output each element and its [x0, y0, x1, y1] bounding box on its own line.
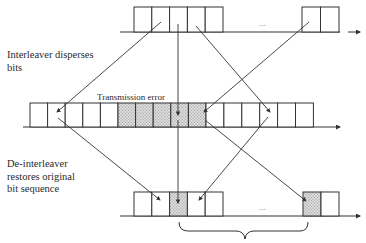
- top-cell: [205, 7, 223, 32]
- top-ellipsis: ...: [259, 18, 266, 28]
- middle-cell: [30, 103, 48, 127]
- middle-cell: [242, 103, 260, 127]
- bottom-bit-sequence: [120, 192, 360, 216]
- bottom-cell-error: [303, 192, 321, 216]
- middle-cell-error: [188, 103, 206, 127]
- interleaver-caption-line: bits: [7, 62, 94, 75]
- bottom-cell: [321, 192, 339, 216]
- middle-cell-error: [153, 103, 171, 127]
- top-bit-sequence: [120, 7, 360, 32]
- middle-cell: [83, 103, 101, 127]
- top-cell: [187, 7, 205, 32]
- middle-cell: [100, 103, 118, 127]
- deinterleaver-caption: De-interleaver restores original bit seq…: [7, 158, 75, 196]
- middle-cell-error: [118, 103, 136, 127]
- top-cell: [134, 7, 152, 32]
- interleave-arrow: [204, 22, 309, 112]
- middle-cell-error: [171, 103, 189, 127]
- bottom-cell: [134, 192, 152, 216]
- interleave-arrow: [196, 26, 270, 112]
- deinterleaver-caption-line: restores original: [7, 171, 75, 184]
- interleaving-diagram: ... ...: [0, 0, 366, 243]
- bottom-ellipsis: ...: [259, 202, 266, 212]
- bottom-cell: [205, 192, 223, 216]
- interleaver-caption-line: Interleaver disperses: [7, 49, 94, 62]
- middle-cell: [224, 103, 242, 127]
- top-cell: [152, 7, 170, 32]
- top-cell: [302, 7, 321, 32]
- deinterleave-arrow: [199, 117, 268, 200]
- error-spread-brace: [179, 222, 308, 239]
- middle-cell: [65, 103, 83, 127]
- deinterleaver-caption-line: De-interleaver: [7, 158, 75, 171]
- middle-cell: [296, 103, 314, 127]
- middle-cell-error: [136, 103, 154, 127]
- middle-bit-sequence: [23, 103, 340, 127]
- bottom-cell-error: [170, 192, 188, 216]
- top-cell: [170, 7, 188, 32]
- transmission-error-label: Transmission error: [97, 91, 165, 104]
- interleaver-caption: Interleaver disperses bits: [7, 49, 94, 74]
- middle-cell: [278, 103, 296, 127]
- deinterleave-arrows: [58, 117, 306, 203]
- interleave-arrows: [57, 22, 309, 115]
- top-cell: [321, 7, 340, 32]
- deinterleaver-caption-line: bit sequence: [7, 183, 75, 196]
